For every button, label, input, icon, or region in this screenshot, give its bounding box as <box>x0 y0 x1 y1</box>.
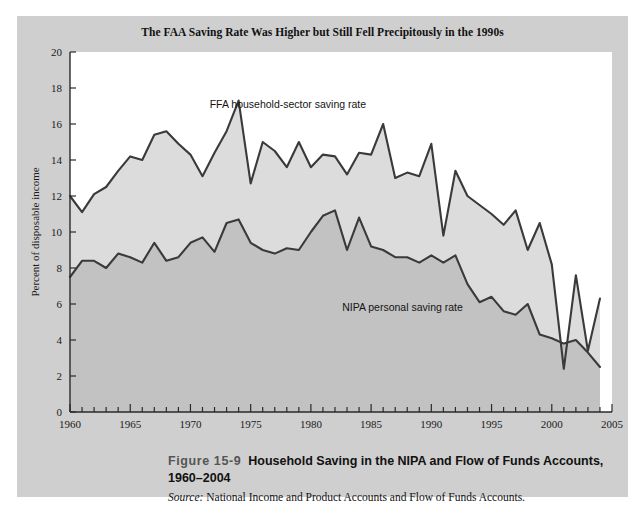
chart-svg: 0246810121416182019601965197019751980198… <box>17 16 628 436</box>
y-tick-label: 14 <box>51 154 63 166</box>
caption-source-label: Source: <box>168 491 203 503</box>
y-tick-label: 8 <box>57 262 63 274</box>
caption-block: Figure 15-9 Household Saving in the NIPA… <box>168 453 638 503</box>
y-tick-label: 16 <box>51 118 63 130</box>
y-tick-label: 18 <box>51 82 63 94</box>
y-tick-label: 12 <box>51 190 62 202</box>
x-tick-label: 2000 <box>541 418 564 430</box>
y-tick-label: 10 <box>51 226 63 238</box>
y-axis-title: Percent of disposable income <box>29 167 41 296</box>
x-tick-label: 1990 <box>420 418 443 430</box>
x-tick-label: 1975 <box>240 418 263 430</box>
y-tick-label: 4 <box>57 334 63 346</box>
annotation-nipa: NIPA personal saving rate <box>342 301 463 313</box>
x-tick-label: 1970 <box>179 418 202 430</box>
y-tick-label: 0 <box>57 406 63 418</box>
x-tick-label: 1980 <box>300 418 323 430</box>
x-tick-label: 1960 <box>59 418 82 430</box>
x-tick-label: 1985 <box>360 418 383 430</box>
figure-panel: The FAA Saving Rate Was Higher but Still… <box>17 16 628 497</box>
plot-area: 0246810121416182019601965197019751980198… <box>17 16 628 436</box>
caption-main: Figure 15-9 Household Saving in the NIPA… <box>168 453 638 486</box>
x-tick-label: 2005 <box>601 418 624 430</box>
x-tick-label: 1995 <box>481 418 504 430</box>
caption-source: Source: National Income and Product Acco… <box>168 491 638 503</box>
y-tick-label: 20 <box>51 46 63 58</box>
figure-root: The FAA Saving Rate Was Higher but Still… <box>0 0 643 516</box>
annotation-ffa: FFA household-sector saving rate <box>210 98 367 110</box>
caption-source-text: National Income and Product Accounts and… <box>203 491 525 503</box>
y-tick-label: 6 <box>57 298 63 310</box>
caption-figure-number: Figure 15-9 <box>168 454 241 468</box>
y-tick-label: 2 <box>57 370 63 382</box>
y-axis-label: Percent of disposable income <box>29 167 41 296</box>
x-tick-label: 1965 <box>119 418 142 430</box>
